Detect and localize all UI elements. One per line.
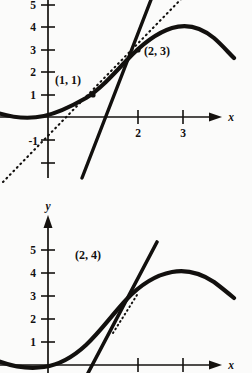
x-axis-arrowhead [209, 113, 222, 122]
y-axis-bottom [44, 215, 53, 373]
y-axis-label-bottom: y [43, 200, 51, 213]
annotation-2-3: (2, 3) [144, 44, 170, 58]
chart-svg-top: 5 4 3 2 1 -1 2 3 x (2, 3) (1, 1) [0, 0, 252, 190]
x-axis-label-top: x [227, 111, 234, 123]
y-tick-label-4-bottom: 4 [30, 267, 36, 279]
x-tick-label-2-top: 2 [135, 127, 141, 139]
y-axis-arrowhead-bottom [44, 215, 53, 228]
x-axis-label-bottom: x [227, 359, 234, 371]
y-tick-label-2-top: 2 [30, 66, 36, 78]
x-axis-arrowhead-bottom [209, 361, 222, 370]
y-tick-label-1-top: 1 [30, 89, 36, 101]
chart-panel-top: 5 4 3 2 1 -1 2 3 x (2, 3) (1, 1) [0, 0, 252, 190]
y-tick-label-1-bottom: 1 [30, 336, 36, 348]
y-tick-label-3-top: 3 [30, 44, 36, 56]
y-tick-label-4-top: 4 [30, 21, 36, 33]
y-tick-label-5-bottom: 5 [30, 244, 36, 256]
chart-panel-bottom: 5 4 3 2 1 y x (2, 4) [0, 190, 252, 373]
y-tick-label-3-bottom: 3 [30, 290, 36, 302]
point-marker-1-1 [90, 92, 95, 97]
y-tick-label-5-top: 5 [30, 0, 36, 11]
annotation-2-4: (2, 4) [75, 248, 101, 262]
annotation-1-1: (1, 1) [55, 73, 81, 87]
figure-page: 5 4 3 2 1 -1 2 3 x (2, 3) (1, 1) [0, 0, 252, 373]
y-tick-label-neg1-top: -1 [28, 135, 38, 147]
x-tick-label-3-top: 3 [180, 127, 186, 139]
chart-svg-bottom: 5 4 3 2 1 y x (2, 4) [0, 190, 252, 373]
y-tick-label-2-bottom: 2 [30, 313, 36, 325]
point-marker-2-3 [135, 47, 140, 52]
